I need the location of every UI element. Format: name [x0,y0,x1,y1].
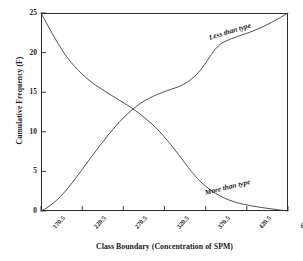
y-tick-label-0: 0 [11,207,37,214]
curve-more-than-type [41,13,288,211]
y-tick-label-10: 10 [11,128,37,135]
y-axis-title: Cumulative Frequency (F) [15,16,24,186]
y-tick-marks [41,13,46,211]
chart-canvas [0,0,303,261]
y-tick-label-15: 15 [11,88,37,95]
curve-less-than-type [41,13,288,211]
y-tick-label-5: 5 [11,167,37,174]
x-tick-marks [41,206,288,211]
chart-figure: Cumulative Frequency (F) Class Boundary … [0,0,303,261]
y-tick-label-25: 25 [11,9,37,16]
y-tick-label-20: 20 [11,49,37,56]
x-axis-title: Class Boundary (Concentration of SPM) [41,242,288,251]
